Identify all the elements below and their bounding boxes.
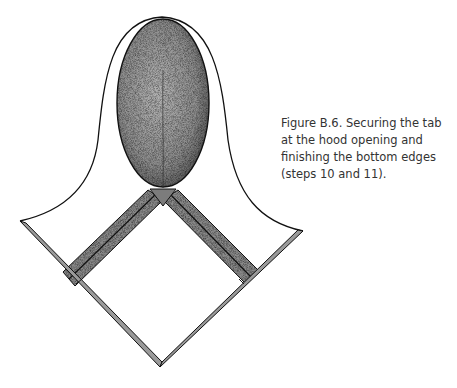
hood-illustration	[0, 0, 457, 388]
left-band	[63, 190, 163, 286]
caption-line-1: Figure B.6. Securing the tab	[281, 115, 457, 132]
hood-opening	[117, 19, 209, 188]
caption-line-2: at the hood opening and	[281, 132, 457, 149]
bottom-hem	[20, 221, 303, 367]
figure-caption: Figure B.6. Securing the tab at the hood…	[281, 115, 457, 183]
right-band	[163, 190, 258, 283]
caption-line-4: (steps 10 and 11).	[281, 166, 457, 183]
caption-line-3: finishing the bottom edges	[281, 149, 457, 166]
